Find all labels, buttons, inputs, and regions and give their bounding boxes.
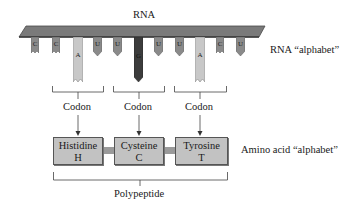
codon-label: Codon (185, 101, 213, 112)
amino-acid-name: Cysteine (115, 140, 163, 152)
amino-acid-code: T (176, 152, 227, 164)
amino-acid-name: Histidine (54, 140, 102, 152)
codon-label: Codon (63, 101, 91, 112)
amino-acid-histidine: Histidine H (53, 137, 103, 165)
amino-acid-name: Tyrosine (176, 140, 227, 152)
amino-acid-cysteine: Cysteine C (114, 137, 164, 165)
amino-acid-tyrosine: Tyrosine T (175, 137, 228, 165)
amino-acid-alphabet-label: Amino acid “alphabet” (241, 144, 338, 155)
amino-acid-code: C (115, 152, 163, 164)
codon-label: Codon (124, 101, 152, 112)
amino-acid-code: H (54, 152, 102, 164)
codon-brackets (0, 0, 354, 209)
polypeptide-label: Polypeptide (114, 188, 164, 199)
